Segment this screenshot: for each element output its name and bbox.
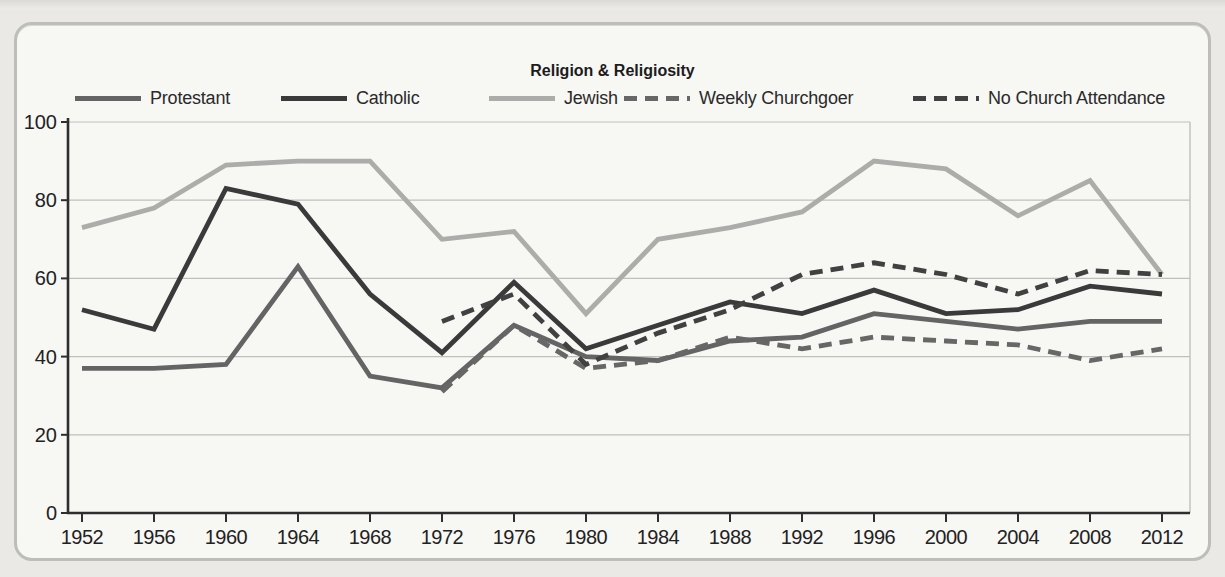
x-tick-label-2000: 2000: [925, 526, 968, 548]
line-chart: 0204060801001952195619601964196819721976…: [0, 0, 1225, 577]
x-tick-label-1980: 1980: [565, 526, 608, 548]
y-tick-label-100: 100: [24, 111, 57, 133]
x-tick-label-2012: 2012: [1141, 526, 1184, 548]
x-tick-label-1972: 1972: [421, 526, 464, 548]
x-tick-label-1952: 1952: [61, 526, 104, 548]
y-tick-label-40: 40: [35, 346, 57, 368]
y-tick-label-80: 80: [35, 189, 57, 211]
x-tick-label-2004: 2004: [997, 526, 1040, 548]
x-tick-label-1992: 1992: [781, 526, 824, 548]
x-tick-label-1960: 1960: [205, 526, 248, 548]
y-tick-label-60: 60: [35, 267, 57, 289]
y-tick-label-20: 20: [35, 424, 57, 446]
x-tick-label-1996: 1996: [853, 526, 896, 548]
x-tick-label-1964: 1964: [277, 526, 320, 548]
y-tick-label-0: 0: [46, 502, 57, 524]
x-tick-label-1976: 1976: [493, 526, 536, 548]
x-tick-label-1968: 1968: [349, 526, 392, 548]
x-tick-label-1988: 1988: [709, 526, 752, 548]
x-tick-label-1956: 1956: [133, 526, 176, 548]
x-tick-label-2008: 2008: [1069, 526, 1112, 548]
x-tick-label-1984: 1984: [637, 526, 680, 548]
series-line-protestant: [82, 267, 1162, 388]
